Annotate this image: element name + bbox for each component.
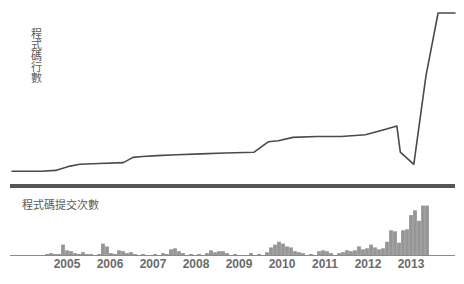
lines-of-code-polyline (12, 13, 455, 171)
commit-bar (49, 253, 53, 255)
commit-bar (269, 247, 273, 255)
commit-bar (373, 247, 377, 255)
commit-bar (413, 210, 417, 255)
commit-bar (221, 251, 225, 255)
commit-bar (225, 253, 229, 255)
commit-bar (277, 242, 281, 255)
commit-bar (249, 253, 253, 255)
commit-bar (325, 251, 329, 255)
commit-bar (45, 254, 49, 255)
commit-bar (353, 250, 357, 255)
commit-bar (205, 253, 209, 255)
commit-bar (369, 245, 373, 255)
commit-bar (341, 252, 345, 255)
commit-bar (117, 250, 121, 255)
commit-bar (141, 254, 145, 255)
commit-bar (233, 254, 237, 255)
x-axis-tick-labels: 200520062007200820092010201120122013 (0, 257, 464, 275)
x-axis-tick-2008: 2008 (183, 257, 210, 272)
commit-bar (213, 252, 217, 255)
x-axis-tick-2009: 2009 (226, 257, 253, 272)
commit-bar (285, 246, 289, 255)
commit-bar (425, 206, 429, 255)
commit-bar (309, 254, 313, 255)
x-axis-tick-2005: 2005 (54, 257, 81, 272)
commit-bar (397, 243, 401, 255)
commit-bar (89, 254, 93, 255)
commit-bar (69, 251, 73, 255)
commit-bar (121, 251, 125, 255)
commit-bar (297, 252, 301, 255)
commit-bar (165, 254, 169, 255)
x-axis-tick-2013: 2013 (398, 257, 425, 272)
commit-bar (113, 254, 117, 255)
commit-bar (417, 221, 421, 255)
commit-bar (209, 250, 213, 255)
panel-divider (10, 184, 455, 188)
commit-bar (217, 251, 221, 255)
commit-bar (393, 231, 397, 255)
x-axis-tick-2006: 2006 (97, 257, 124, 272)
commit-bar (101, 244, 105, 255)
commit-bar (289, 247, 293, 255)
commit-bar (65, 250, 69, 255)
commit-bar (85, 254, 89, 255)
commit-bar (189, 254, 193, 255)
commit-bar (281, 244, 285, 255)
commit-bar (125, 253, 129, 255)
commit-bars-series (45, 206, 429, 256)
commit-bar (345, 250, 349, 255)
commit-activity-figure: 程式碼行數 程式碼提交次數 20052006200720082009201020… (0, 0, 464, 284)
commit-bar (257, 254, 261, 255)
commit-bar (377, 249, 381, 255)
commit-bar (197, 254, 201, 255)
x-axis-tick-2011: 2011 (312, 257, 338, 272)
commit-bar (293, 251, 297, 255)
commit-bar (77, 254, 81, 255)
commit-bar (389, 230, 393, 255)
commit-bar (61, 245, 65, 255)
lines-of-code-line-series (12, 13, 455, 171)
commits-panel-title: 程式碼提交次數 (22, 199, 99, 212)
commit-bar (129, 252, 133, 255)
commit-bar (381, 248, 385, 255)
x-axis-tick-2007: 2007 (140, 257, 167, 272)
commit-bar (421, 206, 425, 255)
chart-canvas (0, 0, 464, 284)
commit-bar (365, 248, 369, 255)
commit-bar (173, 248, 177, 255)
commit-bar (109, 253, 113, 255)
commit-bar (361, 249, 365, 255)
commit-bar (409, 215, 413, 255)
commit-bar (105, 246, 109, 255)
commit-bar (265, 252, 269, 255)
commit-bar (357, 246, 361, 255)
commit-bar (181, 253, 185, 255)
commit-bar (53, 254, 57, 255)
commit-bar (161, 253, 165, 255)
commit-bar (317, 251, 321, 255)
commit-bar (329, 253, 333, 255)
x-axis-tick-2012: 2012 (355, 257, 382, 272)
commit-bar (349, 251, 353, 255)
commit-bar (73, 253, 77, 255)
commit-bar (301, 253, 305, 255)
lines-of-code-axis-label: 程式碼行數 (25, 28, 43, 83)
commit-bar (177, 251, 181, 255)
commit-bar (169, 249, 173, 255)
commit-bar (401, 230, 405, 255)
commit-bar (337, 253, 341, 255)
commit-bar (385, 242, 389, 255)
commit-bar (133, 254, 137, 255)
commit-bar (405, 229, 409, 255)
commit-bar (81, 252, 85, 255)
commit-bar (57, 254, 61, 255)
commit-bar (321, 250, 325, 255)
commit-bar (153, 254, 157, 255)
commit-bar (97, 254, 101, 255)
x-axis-tick-2010: 2010 (269, 257, 296, 272)
commit-bar (273, 245, 277, 255)
